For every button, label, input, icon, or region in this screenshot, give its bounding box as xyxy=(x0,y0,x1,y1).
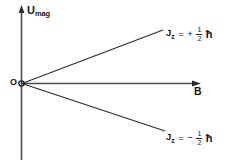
branch-sign: − xyxy=(187,133,193,143)
branch-sign: + xyxy=(187,29,193,39)
y-axis-subscript: mag xyxy=(35,9,50,18)
branch-symbol: Jz xyxy=(166,132,175,144)
branch-equals: = xyxy=(178,29,184,39)
branch-fraction-one-half: 1 2 xyxy=(196,26,202,42)
fraction-numerator: 1 xyxy=(196,130,202,138)
origin-label: O xyxy=(10,78,17,87)
fraction-denominator: 2 xyxy=(196,139,202,147)
y-axis-arrowhead xyxy=(19,5,25,13)
fraction-numerator: 1 xyxy=(196,26,202,34)
y-axis-label: Umag xyxy=(27,5,50,18)
y-axis-symbol: U xyxy=(27,4,35,16)
zeeman-splitting-figure: Umag B O Jz = + 1 2 ħ Jz = − 1 2 ħ xyxy=(0,0,233,166)
h-bar-symbol: ħ xyxy=(206,133,213,144)
branch-fraction-one-half: 1 2 xyxy=(196,130,202,146)
branch-equals: = xyxy=(178,133,184,143)
branch-label-spin-up: Jz = + 1 2 ħ xyxy=(166,26,213,42)
branch-line-spin-up xyxy=(22,30,163,84)
fraction-denominator: 2 xyxy=(196,35,202,43)
branch-symbol: Jz xyxy=(166,28,175,40)
h-bar-symbol: ħ xyxy=(206,29,213,40)
branch-label-spin-down: Jz = − 1 2 ħ xyxy=(166,130,213,146)
x-axis-label: B xyxy=(194,86,202,97)
branch-line-spin-down xyxy=(22,84,165,132)
